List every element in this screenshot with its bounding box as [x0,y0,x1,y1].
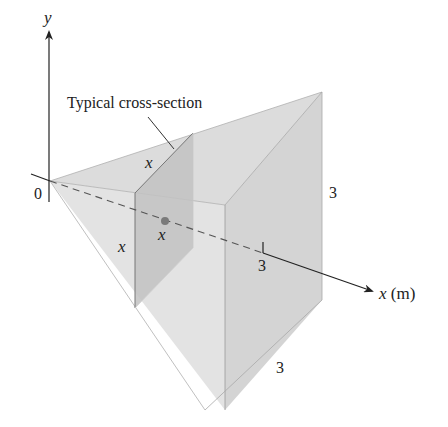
annotation-label: Typical cross-section [67,94,202,112]
cross-section-top-label: x [144,153,153,172]
origin-tick [31,174,50,181]
base-label: 3 [276,359,284,376]
cross-section-point [161,217,169,225]
x-tick-label: 3 [258,257,266,274]
y-axis-label: y [42,8,52,27]
x-axis-unit: (m) [387,284,416,303]
cross-section-left-label: x [117,237,126,256]
x-axis-label: x (m) [378,284,415,303]
height-label: 3 [329,184,337,201]
pyramid-cross-section-diagram: y 0 Typical cross-section x x x 3 3 3 x … [0,0,448,427]
annotation-leader [148,117,174,149]
position-label: x [157,225,166,244]
origin-label: 0 [34,185,42,202]
